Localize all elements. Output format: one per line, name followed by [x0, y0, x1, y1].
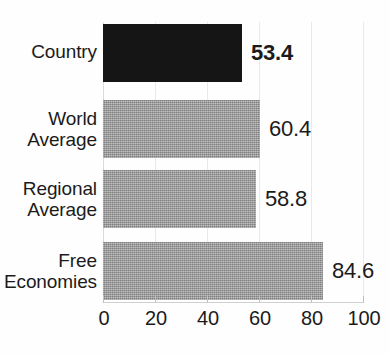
- category-label-line: Country: [2, 41, 97, 62]
- category-label-line: Average: [2, 199, 97, 220]
- x-tick-0: [103, 296, 104, 303]
- x-tick-60: [259, 296, 260, 303]
- bar-value-free-economies: 84.6: [332, 258, 374, 284]
- x-tick-label-20: 20: [145, 307, 167, 330]
- x-tick-label-0: 0: [99, 307, 110, 330]
- x-tick-label-100: 100: [348, 307, 381, 330]
- x-tick-label-40: 40: [197, 307, 219, 330]
- chart-title: [103, 0, 365, 2]
- x-tick-20: [155, 296, 156, 303]
- bar-country[interactable]: [103, 24, 242, 82]
- bar-regional-average[interactable]: [103, 170, 256, 228]
- x-tick-label-80: 80: [301, 307, 323, 330]
- category-label-world-average: World Average: [2, 108, 97, 150]
- bar-world-average[interactable]: [103, 100, 260, 158]
- bar-value-regional-average: 58.8: [265, 186, 307, 212]
- x-tick-label-60: 60: [249, 307, 271, 330]
- plot-area: 53.4 60.4 58.8 84.6: [103, 22, 363, 302]
- category-label-line: Average: [2, 129, 97, 150]
- category-label-line: Regional: [2, 178, 97, 199]
- category-label-line: Economies: [2, 271, 97, 292]
- bar-free-economies[interactable]: [103, 242, 323, 300]
- x-tick-80: [311, 296, 312, 303]
- category-label-regional-average: Regional Average: [2, 178, 97, 220]
- category-label-free-economies: Free Economies: [2, 250, 97, 292]
- category-label-line: World: [2, 108, 97, 129]
- category-label-country: Country: [2, 41, 97, 62]
- x-tick-100: [363, 296, 364, 303]
- bar-value-world-average: 60.4: [269, 116, 311, 142]
- bar-value-country: 53.4: [251, 40, 293, 66]
- x-tick-40: [207, 296, 208, 303]
- bar-chart: 53.4 60.4 58.8 84.6 Country World Averag…: [0, 0, 389, 356]
- x-axis-line: [103, 302, 364, 303]
- category-label-line: Free: [2, 250, 97, 271]
